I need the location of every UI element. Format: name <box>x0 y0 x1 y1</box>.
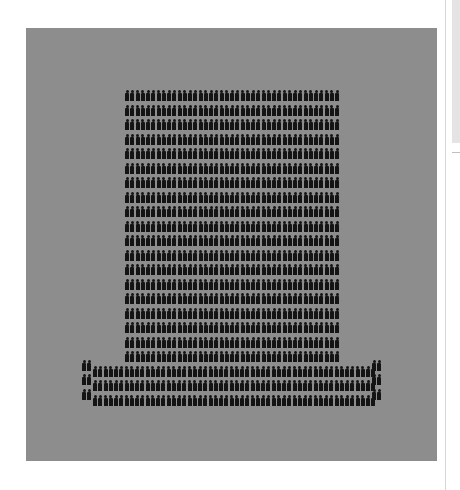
person-icon <box>314 105 318 116</box>
person-icon <box>162 250 166 261</box>
person-icon <box>178 250 182 261</box>
person-icon <box>298 380 302 391</box>
person-icon <box>136 279 140 290</box>
person-icon <box>272 308 276 319</box>
person-icon <box>241 351 245 362</box>
person-icon <box>293 395 297 406</box>
person-icon <box>151 351 155 362</box>
person-icon <box>114 395 118 406</box>
person-icon <box>304 308 308 319</box>
person-icon <box>282 380 286 391</box>
person-icon <box>340 395 344 406</box>
person-icon <box>130 105 134 116</box>
person-icon <box>178 221 182 232</box>
person-icon <box>267 148 271 159</box>
person-icon <box>188 192 192 203</box>
person-icon <box>298 148 302 159</box>
person-icon <box>214 293 218 304</box>
person-icon <box>330 337 334 348</box>
person-icon <box>93 380 97 391</box>
person-icon <box>214 395 218 406</box>
person-icon <box>136 177 140 188</box>
scrollbar-thumb[interactable] <box>452 0 460 143</box>
person-icon <box>283 235 287 246</box>
person-icon <box>262 337 266 348</box>
person-icon <box>220 119 224 130</box>
person-icon <box>151 134 155 145</box>
person-icon <box>246 235 250 246</box>
person-icon <box>209 148 213 159</box>
person-icon <box>209 90 213 101</box>
person-icon <box>157 177 161 188</box>
person-icon <box>214 206 218 217</box>
person-icon <box>325 119 329 130</box>
person-icon <box>178 337 182 348</box>
person-icon <box>220 90 224 101</box>
person-icon <box>146 163 150 174</box>
person-icon <box>277 351 281 362</box>
person-icon <box>230 119 234 130</box>
person-icon <box>272 206 276 217</box>
person-icon <box>151 105 155 116</box>
person-icon <box>209 163 213 174</box>
person-icon <box>319 177 323 188</box>
person-icon <box>246 221 250 232</box>
person-icon <box>199 308 203 319</box>
person-icon <box>125 337 129 348</box>
person-icon <box>167 192 171 203</box>
person-icon <box>246 250 250 261</box>
person-icon <box>304 148 308 159</box>
person-icon <box>293 380 297 391</box>
person-icon <box>288 221 292 232</box>
person-icon <box>146 90 150 101</box>
person-icon <box>256 119 260 130</box>
person-icon <box>319 351 323 362</box>
person-icon <box>298 308 302 319</box>
person-icon <box>325 235 329 246</box>
person-icon <box>199 206 203 217</box>
person-icon <box>251 134 255 145</box>
person-icon <box>293 337 297 348</box>
person-icon <box>188 177 192 188</box>
person-icon <box>114 380 118 391</box>
person-icon <box>319 119 323 130</box>
person-icon <box>267 235 271 246</box>
person-icon <box>156 395 160 406</box>
person-icon <box>241 163 245 174</box>
person-icon <box>146 235 150 246</box>
person-icon <box>141 105 145 116</box>
person-icon <box>304 235 308 246</box>
person-icon <box>130 293 134 304</box>
person-icon <box>241 206 245 217</box>
person-icon <box>188 221 192 232</box>
person-icon <box>267 293 271 304</box>
person-icon <box>125 380 129 391</box>
person-icon <box>356 380 360 391</box>
person-icon <box>146 380 150 391</box>
person-icon <box>183 250 187 261</box>
person-icon <box>277 264 281 275</box>
person-icon <box>335 206 339 217</box>
person-icon <box>177 380 181 391</box>
person-icon <box>125 351 129 362</box>
person-icon <box>178 235 182 246</box>
person-icon <box>188 235 192 246</box>
person-icon <box>272 293 276 304</box>
person-icon <box>141 119 145 130</box>
person-icon <box>335 322 339 333</box>
person-icon <box>199 322 203 333</box>
person-icon <box>262 192 266 203</box>
person-icon <box>235 177 239 188</box>
person-icon <box>324 380 328 391</box>
person-icon <box>141 235 145 246</box>
person-icon <box>256 264 260 275</box>
person-icon <box>162 134 166 145</box>
person-icon <box>225 293 229 304</box>
person-icon <box>172 90 176 101</box>
person-icon <box>283 351 287 362</box>
person-icon <box>283 308 287 319</box>
person-icon <box>125 90 129 101</box>
person-icon <box>235 308 239 319</box>
person-icon <box>204 351 208 362</box>
person-icon <box>204 322 208 333</box>
